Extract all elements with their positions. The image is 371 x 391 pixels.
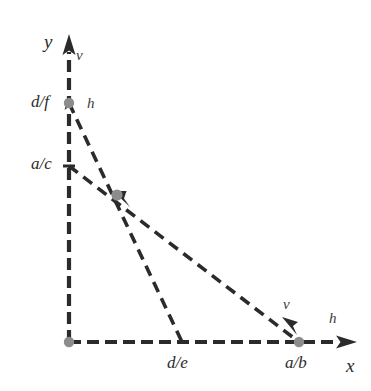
constraint-line-v	[69, 166, 299, 342]
point-ab	[294, 337, 304, 347]
x-axis-arrowhead	[336, 336, 357, 349]
edge-label-v-lower: v	[283, 297, 290, 312]
constraint-line-h	[69, 103, 182, 342]
tick-label-df: d/f	[31, 93, 49, 110]
diagram-canvas	[0, 0, 371, 391]
edge-label-v-upper: v	[76, 48, 83, 63]
y-axis-label: y	[44, 32, 52, 51]
tick-label-ab: a/b	[285, 354, 307, 371]
tick-label-ac: a/c	[31, 155, 52, 172]
x-axis-label: x	[346, 356, 354, 375]
edge-label-h-lower: h	[329, 311, 337, 326]
point-df	[64, 98, 74, 108]
math-diagram-figure: y x d/f a/c d/e a/b v h v h	[0, 0, 371, 391]
point-intersection	[111, 189, 122, 200]
edge-label-h-upper: h	[87, 96, 95, 111]
tick-label-de: d/e	[167, 354, 188, 371]
point-origin	[64, 337, 74, 347]
y-axis-arrowhead	[63, 34, 76, 55]
